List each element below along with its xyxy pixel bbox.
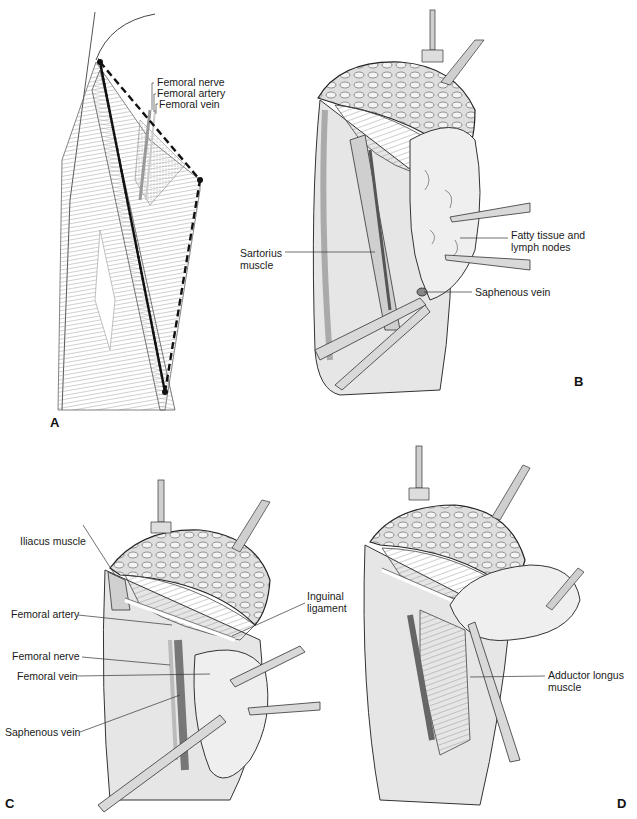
panel-c: Iliacus muscle Femoral artery Inguinal l… <box>0 440 340 819</box>
label-sartorius-muscle: Sartorius muscle <box>240 247 290 271</box>
panel-c-illustration <box>0 440 340 819</box>
panel-b: Sartorius muscle Fatty tissue and lymph … <box>240 0 637 420</box>
label-femoral-vein-c: Femoral vein <box>17 670 78 682</box>
label-iliacus-muscle: Iliacus muscle <box>20 535 86 547</box>
panel-letter-d: D <box>617 796 626 811</box>
label-femoral-vein-a: Femoral vein <box>159 98 220 110</box>
label-saphenous-vein-b: Saphenous vein <box>475 286 550 298</box>
panel-letter-b: B <box>574 374 583 389</box>
label-saphenous-vein-c: Saphenous vein <box>5 726 80 738</box>
label-femoral-nerve-c: Femoral nerve <box>12 650 80 662</box>
panel-a: Femoral nerve Femoral artery Femoral vei… <box>0 0 240 440</box>
label-adductor-longus-muscle: Adductor longus muscle <box>548 669 628 693</box>
panel-d-illustration <box>340 440 637 819</box>
panel-b-illustration <box>240 0 637 420</box>
panel-letter-a: A <box>50 415 59 430</box>
label-fatty-tissue-lymph-nodes: Fatty tissue and lymph nodes <box>511 229 601 253</box>
panel-letter-c: C <box>5 796 14 811</box>
label-femoral-artery-c: Femoral artery <box>11 608 79 620</box>
panel-d: Adductor longus muscle D <box>340 440 637 819</box>
panel-a-illustration <box>0 0 240 440</box>
